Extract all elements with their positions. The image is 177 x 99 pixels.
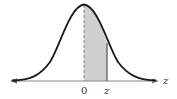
normal-curve-diagram: 0 z z xyxy=(0,0,177,99)
tick-label-zero: 0 xyxy=(81,85,87,96)
tick-label-z: z xyxy=(103,85,110,96)
axis-label-z: z xyxy=(162,75,169,86)
